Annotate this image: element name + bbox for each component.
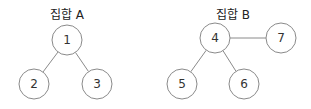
node-4-label: 4 bbox=[211, 31, 219, 45]
node-5-label: 5 bbox=[178, 77, 186, 91]
edge-1-3 bbox=[75, 52, 88, 71]
node-7-label: 7 bbox=[277, 31, 285, 45]
set-b-title: 집합 B bbox=[216, 8, 250, 22]
graph-canvas bbox=[0, 0, 311, 109]
node-3-label: 3 bbox=[93, 77, 101, 91]
set-a-title: 집합 A bbox=[50, 8, 84, 22]
edge-4-5 bbox=[191, 50, 207, 72]
node-1-label: 1 bbox=[63, 33, 71, 47]
node-2-label: 2 bbox=[30, 77, 38, 91]
node-6-label: 6 bbox=[240, 77, 248, 91]
edge-4-6 bbox=[223, 51, 236, 72]
edge-1-2 bbox=[43, 52, 58, 72]
